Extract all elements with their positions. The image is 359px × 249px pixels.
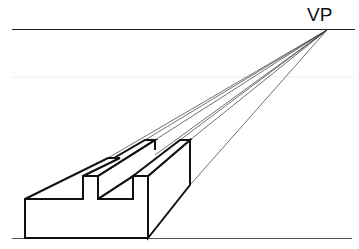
drawing-canvas — [0, 0, 359, 249]
notched-block — [25, 140, 190, 238]
perspective-diagram: VP — [0, 0, 359, 249]
vanishing-point-label: VP — [307, 4, 332, 26]
construction-lines — [108, 30, 327, 185]
